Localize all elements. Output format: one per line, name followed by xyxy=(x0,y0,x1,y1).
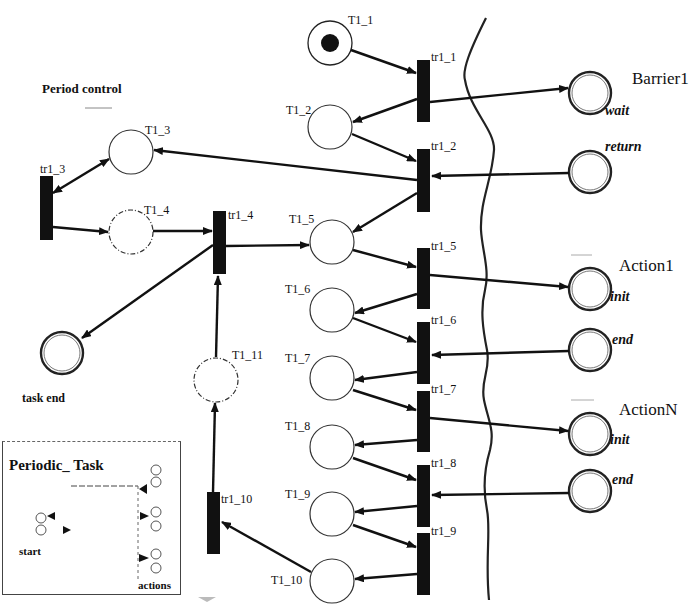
place-task-end xyxy=(41,332,83,374)
label-T1_5: T1_5 xyxy=(289,213,314,225)
label-tr1_3: tr1_3 xyxy=(40,163,65,175)
transition-tr1_6 xyxy=(417,322,430,384)
place-T1_6 xyxy=(310,288,354,332)
place-T1_1 xyxy=(308,21,352,65)
transition-tr1_3 xyxy=(40,176,53,240)
transition-tr1_8 xyxy=(417,465,430,527)
interface-action1: Action1 xyxy=(619,257,674,274)
interface-barrier1: Barrier1 xyxy=(632,70,689,87)
transition-tr1_4 xyxy=(213,211,226,274)
period-control-title: Period control xyxy=(42,82,122,95)
label-T1_8: T1_8 xyxy=(285,420,310,432)
inset-start-label: start xyxy=(19,546,41,557)
label-T1_11: T1_11 xyxy=(232,349,263,361)
place-T1_8 xyxy=(310,425,354,469)
transition-tr1_5 xyxy=(417,248,430,309)
place-T1_9 xyxy=(310,492,354,536)
label-tr1_7: tr1_7 xyxy=(431,383,456,395)
port-action1-init: init xyxy=(610,290,629,304)
label-tr1_6: tr1_6 xyxy=(431,314,456,326)
interface-place-barrier1-return xyxy=(569,151,611,193)
transition-tr1_9 xyxy=(417,533,430,595)
label-task-end: task end xyxy=(22,392,65,404)
label-tr1_5: tr1_5 xyxy=(431,240,456,252)
label-T1_7: T1_7 xyxy=(285,352,310,364)
port-barrier1-return: return xyxy=(605,140,642,154)
transition-tr1_1 xyxy=(417,60,430,122)
interface-place-actionN-end xyxy=(569,470,611,512)
token-icon xyxy=(321,34,339,52)
boundary-line xyxy=(464,18,494,600)
label-tr1_1: tr1_1 xyxy=(431,51,456,63)
transition-tr1_7 xyxy=(417,391,430,452)
interface-place-actionN-init xyxy=(569,413,611,455)
label-T1_3: T1_3 xyxy=(145,124,170,136)
label-tr1_4: tr1_4 xyxy=(228,209,253,221)
interface-place-action1-init xyxy=(569,268,611,310)
place-T1_7 xyxy=(310,356,354,400)
periodic-task-inset: Periodic_ Task start actions xyxy=(2,441,181,595)
port-actionN-end: end xyxy=(612,473,633,487)
transition-tr1_2 xyxy=(417,149,430,212)
place-T1_11 xyxy=(194,358,238,402)
place-T1_2 xyxy=(308,105,352,149)
label-T1_1: T1_1 xyxy=(348,14,373,26)
label-T1_2: T1_2 xyxy=(286,104,311,116)
label-T1_9: T1_9 xyxy=(285,488,310,500)
interface-place-action1-end xyxy=(569,329,611,371)
label-T1_10: T1_10 xyxy=(271,574,302,586)
interface-actionN: ActionN xyxy=(619,401,678,418)
inset-actions-label: actions xyxy=(138,580,171,591)
place-T1_5 xyxy=(310,220,354,264)
port-action1-end: end xyxy=(612,333,633,347)
label-T1_6: T1_6 xyxy=(285,283,310,295)
inset-mini-diagram xyxy=(3,442,180,594)
label-tr1_10: tr1_10 xyxy=(221,493,252,505)
label-tr1_2: tr1_2 xyxy=(431,140,456,152)
place-T1_10 xyxy=(310,559,354,603)
transition-tr1_10 xyxy=(207,492,220,554)
label-tr1_9: tr1_9 xyxy=(431,525,456,537)
port-actionN-init: init xyxy=(610,433,629,447)
port-barrier1-wait: wait xyxy=(605,104,629,118)
label-T1_4: T1_4 xyxy=(144,204,169,216)
label-tr1_8: tr1_8 xyxy=(431,457,456,469)
